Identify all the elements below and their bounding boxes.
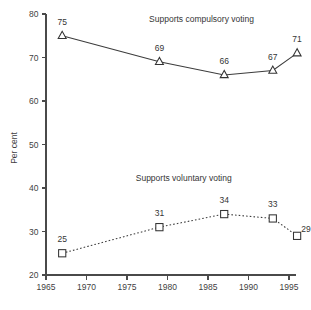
- data-point-label: 75: [57, 17, 67, 27]
- data-point-marker: [59, 250, 66, 257]
- series-line-2: [62, 214, 297, 253]
- data-point-marker: [156, 224, 163, 231]
- data-point-label: 29: [301, 224, 311, 234]
- x-tick-label: 1970: [77, 282, 96, 292]
- y-tick-label: 60: [29, 96, 39, 106]
- series-layer: 75696667712531343329: [57, 17, 311, 257]
- y-axis: 20304050607080: [29, 9, 46, 280]
- data-point-label: 71: [292, 34, 302, 44]
- data-point-marker: [269, 66, 277, 73]
- y-tick-label: 80: [29, 9, 39, 19]
- line-chart: 20304050607080 1965197019751980198519901…: [0, 0, 311, 310]
- data-point-label: 33: [268, 199, 278, 209]
- x-tick-label: 1980: [158, 282, 177, 292]
- x-tick-label: 1985: [199, 282, 218, 292]
- y-tick-label: 70: [29, 53, 39, 63]
- data-point-marker: [269, 215, 276, 222]
- data-point-label: 66: [219, 56, 229, 66]
- series-line-1: [62, 36, 297, 75]
- x-tick-label: 1975: [118, 282, 137, 292]
- data-point-label: 69: [155, 43, 165, 53]
- series-annotation-1: Supports compulsory voting: [149, 14, 254, 24]
- y-axis-title: Per cent: [9, 132, 19, 164]
- data-point-marker: [293, 49, 301, 56]
- data-point-marker: [294, 232, 301, 239]
- data-point-marker: [58, 31, 66, 38]
- data-point-label: 34: [219, 195, 229, 205]
- x-axis: 1965197019751980198519901995: [37, 275, 299, 292]
- x-tick-label: 1995: [280, 282, 299, 292]
- chart-canvas: 20304050607080 1965197019751980198519901…: [0, 0, 311, 310]
- x-tick-label: 1990: [239, 282, 258, 292]
- data-point-label: 67: [268, 52, 278, 62]
- y-tick-label: 20: [29, 270, 39, 280]
- data-point-label: 31: [155, 208, 165, 218]
- x-tick-label: 1965: [37, 282, 56, 292]
- y-tick-label: 30: [29, 227, 39, 237]
- y-tick-label: 50: [29, 140, 39, 150]
- y-tick-label: 40: [29, 183, 39, 193]
- data-point-label: 25: [57, 234, 67, 244]
- data-point-marker: [221, 211, 228, 218]
- series-annotation-2: Supports voluntary voting: [136, 173, 232, 183]
- annotation-layer: Supports compulsory votingSupports volun…: [136, 14, 254, 183]
